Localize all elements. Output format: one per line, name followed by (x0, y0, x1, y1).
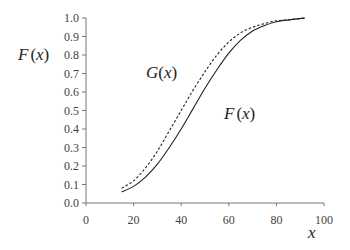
y-tick-label: 0.3 (64, 141, 79, 155)
y-tick-label: 0.7 (64, 67, 79, 81)
y-tick-label: 1.0 (64, 11, 79, 25)
x-tick-label: 80 (270, 213, 282, 227)
y-tick-label: 0.5 (64, 104, 79, 118)
x-tick-label: 0 (83, 213, 89, 227)
x-axis-label: x (307, 223, 316, 242)
y-tick-label: 0.4 (64, 122, 79, 136)
x-tick-label: 60 (223, 213, 235, 227)
y-axis-label: F(x) (17, 45, 49, 64)
y-tick-label: 0.0 (64, 196, 79, 210)
y-tick-label: 0.6 (64, 85, 79, 99)
x-tick-label: 40 (175, 213, 187, 227)
y-tick-label: 0.2 (64, 159, 79, 173)
chart: 0.00.10.20.30.40.50.60.70.80.91.0 020406… (0, 0, 350, 250)
y-tick-label: 0.1 (64, 178, 79, 192)
annotation-g: G(x) (146, 63, 177, 82)
x-tick-label: 20 (128, 213, 140, 227)
y-tick-label: 0.8 (64, 48, 79, 62)
axes (86, 18, 324, 203)
x-tick-label: 100 (315, 213, 333, 227)
annotation-f: F(x) (223, 104, 255, 123)
y-tick-label: 0.9 (64, 30, 79, 44)
series-line-gx (122, 18, 305, 188)
series-line-fx (122, 18, 305, 192)
